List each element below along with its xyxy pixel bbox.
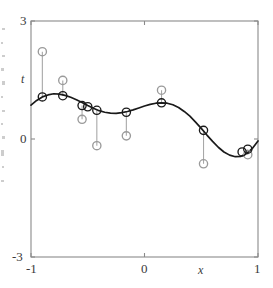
x-axis-title: x — [198, 264, 203, 276]
y-axis-tick-label-middle: 0 — [20, 132, 27, 145]
curve-point-markers — [38, 92, 252, 156]
x-axis-tick-label-left: -1 — [26, 262, 37, 275]
figure-root: 3 0 -3 -1 0 1 t x — [0, 0, 273, 288]
scatter-plot-canvas — [0, 0, 273, 288]
y-axis-tick-label-top: 3 — [20, 14, 27, 27]
model-fit-curve — [31, 94, 258, 157]
y-axis-title: t — [21, 73, 24, 85]
axis-tick-marks — [31, 21, 258, 257]
x-axis-tick-label-middle: 0 — [141, 262, 148, 275]
observed-point-markers — [38, 48, 252, 168]
plot-frame — [31, 21, 258, 257]
y-axis-tick-label-bottom: -3 — [12, 250, 23, 263]
x-axis-tick-label-right: 1 — [254, 262, 261, 275]
